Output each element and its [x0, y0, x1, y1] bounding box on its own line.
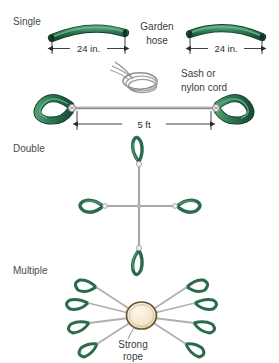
callout-sash-cord-line2: nylon cord	[181, 82, 227, 93]
hose-segment-right	[188, 27, 265, 41]
dimension-label-assembly-length: 5 ft	[137, 119, 151, 130]
single-assembly	[37, 98, 250, 120]
dimension-label-hose-left: 24 in.	[77, 43, 100, 54]
assembly-knot-right	[212, 104, 219, 111]
strong-rope-leader	[128, 328, 134, 339]
multiple-loop-left-3	[68, 322, 89, 333]
multiple-loop-right-3	[194, 322, 215, 333]
sash-cord-coil	[110, 62, 157, 93]
assembly-loop-left	[37, 98, 70, 120]
double-configuration	[80, 138, 200, 275]
multiple-loop-right-1	[187, 280, 208, 292]
hose-segment-left	[50, 27, 128, 41]
diagram-canvas: Single Double Multiple 24 in.	[0, 0, 279, 363]
strong-rope-center	[127, 302, 157, 329]
callout-garden-hose-line2: hose	[146, 35, 168, 46]
multiple-loop-left-1	[75, 280, 96, 292]
assembly-knot-left	[68, 104, 75, 111]
multiple-loop-left-2	[67, 299, 89, 309]
callout-strong-rope-line2: rope	[123, 351, 143, 362]
double-loop-left	[80, 200, 107, 212]
callout-garden-hose-line1: Garden	[140, 21, 173, 32]
multiple-loop-left-4	[79, 344, 97, 357]
section-label-double: Double	[13, 143, 45, 154]
multiple-loop-right-2	[195, 299, 217, 309]
double-loop-bottom	[133, 245, 143, 274]
dimension-label-hose-right: 24 in.	[214, 43, 237, 54]
section-label-single: Single	[13, 16, 41, 27]
double-loop-right	[173, 200, 200, 212]
rope-loop-diagram: Single Double Multiple 24 in.	[0, 0, 279, 363]
dimension-assembly-length: 5 ft	[77, 111, 211, 130]
double-loop-top	[133, 138, 143, 167]
multiple-loop-right-4	[186, 344, 204, 357]
callout-sash-cord-line1: Sash or	[181, 68, 216, 79]
assembly-loop-right	[218, 98, 251, 120]
dimension-hose-right: 24 in.	[190, 36, 262, 54]
section-label-multiple: Multiple	[13, 265, 48, 276]
callout-strong-rope-line1: Strong	[118, 339, 147, 350]
